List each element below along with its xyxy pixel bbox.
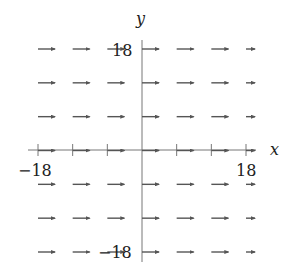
x-axis-label: x xyxy=(270,140,279,159)
y-axis-label: y xyxy=(135,9,146,28)
x-max-tick-label: 18 xyxy=(236,161,256,180)
x-min-tick-label: −18 xyxy=(18,161,52,180)
y-min-tick-label: −18 xyxy=(98,243,132,262)
axis-labels: y x −18 18 18 −18 xyxy=(18,9,279,262)
y-max-tick-label: 18 xyxy=(112,41,132,60)
vector-field-plot: y x −18 18 18 −18 xyxy=(0,0,301,280)
